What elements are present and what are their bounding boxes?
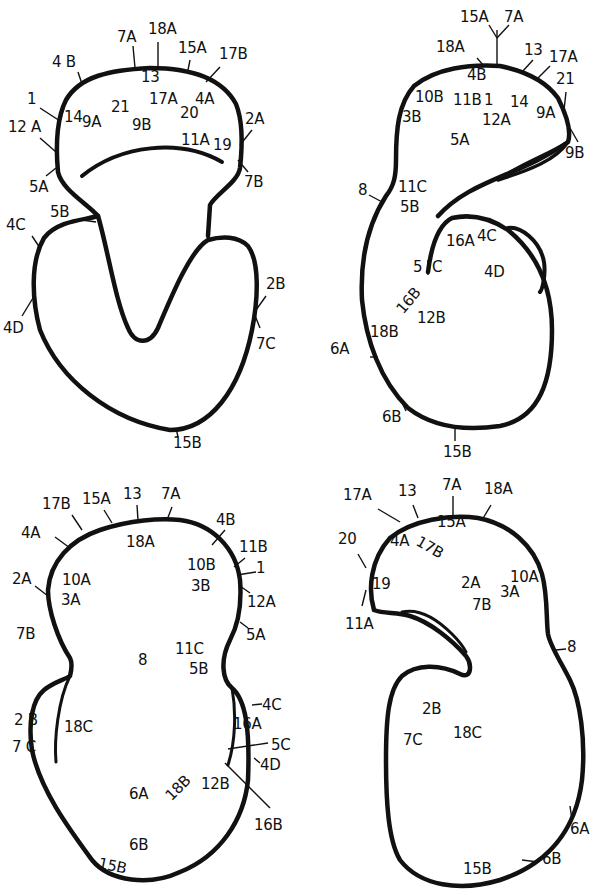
- label-10b: 10B: [187, 558, 215, 573]
- label-9b: 9B: [565, 146, 584, 161]
- label-4b: 4 B: [52, 55, 76, 70]
- outline-drawings: [0, 0, 608, 895]
- label-4c: 4C: [6, 218, 25, 233]
- label-1: 1: [27, 92, 36, 107]
- label-5b: 5B: [400, 200, 419, 215]
- label-4d: 4D: [484, 265, 505, 280]
- label-13: 13: [141, 70, 160, 85]
- label-7b: 7B: [244, 175, 263, 190]
- label-5c-letter: C: [432, 260, 442, 275]
- label-4b: 4B: [467, 68, 486, 83]
- label-17a: 17A: [549, 50, 577, 65]
- label-4a: 4A: [390, 534, 409, 549]
- label-5c: 5C: [271, 738, 290, 753]
- label-7a: 7A: [504, 10, 523, 25]
- label-6b: 6B: [129, 838, 148, 853]
- heart-diagram-figure: 7A 18A 15A 17B 4 B 13 17A 4A 1 14 9A 21 …: [0, 0, 608, 895]
- label-5a: 5A: [246, 628, 265, 643]
- label-15a: 15A: [460, 10, 488, 25]
- label-4d: 4D: [3, 321, 24, 336]
- label-5a: 5A: [29, 180, 48, 195]
- label-18c: 18C: [64, 720, 93, 735]
- label-20: 20: [180, 106, 199, 121]
- label-14: 14: [510, 95, 529, 110]
- label-8: 8: [358, 183, 367, 198]
- label-7a: 7A: [161, 487, 180, 502]
- label-6b: 6B: [382, 410, 401, 425]
- label-10a: 10A: [62, 573, 90, 588]
- label-12b: 12B: [417, 311, 445, 326]
- label-3b: 3B: [191, 579, 210, 594]
- label-21: 21: [111, 100, 130, 115]
- label-14: 14: [64, 110, 83, 125]
- label-16a: 16A: [446, 234, 474, 249]
- label-21: 21: [556, 72, 575, 87]
- label-7a: 7A: [442, 478, 461, 493]
- label-6a: 6A: [330, 342, 349, 357]
- label-5b: 5B: [189, 662, 208, 677]
- label-2a: 2A: [461, 576, 480, 591]
- label-2a: 2A: [12, 572, 31, 587]
- label-15a: 15A: [437, 515, 465, 530]
- label-9a: 9A: [536, 106, 555, 121]
- label-11b: 11B: [453, 93, 481, 108]
- label-18a: 18A: [436, 40, 464, 55]
- label-7c: 7C: [403, 733, 422, 748]
- label-4a: 4A: [21, 526, 40, 541]
- label-18b: 18B: [370, 325, 398, 340]
- leader-lines: [22, 25, 578, 862]
- label-5a: 5A: [450, 133, 469, 148]
- label-3a: 3A: [61, 593, 80, 608]
- label-7c: 7 C: [12, 740, 36, 755]
- label-18a: 18A: [126, 535, 154, 550]
- label-7c: 7C: [256, 337, 275, 352]
- label-18a: 18A: [484, 482, 512, 497]
- label-16b: 16B: [254, 818, 282, 833]
- label-13: 13: [398, 484, 417, 499]
- label-7a: 7A: [117, 30, 136, 45]
- label-13: 13: [123, 487, 142, 502]
- label-12a: 12A: [247, 595, 275, 610]
- label-17b: 17B: [219, 47, 247, 62]
- label-1: 1: [256, 561, 265, 576]
- label-11c: 11C: [175, 642, 204, 657]
- label-16a: 16A: [233, 717, 261, 732]
- label-6a: 6A: [570, 822, 589, 837]
- label-7b: 7B: [472, 598, 491, 613]
- label-2b: 2B: [266, 277, 285, 292]
- label-4c: 4C: [477, 229, 496, 244]
- label-12b: 12B: [201, 777, 229, 792]
- label-12a: 12A: [482, 113, 510, 128]
- label-7b: 7B: [16, 627, 35, 642]
- label-10b: 10B: [415, 90, 443, 105]
- label-19: 19: [213, 138, 232, 153]
- label-2b: 2B: [422, 702, 441, 717]
- label-17a: 17A: [343, 488, 371, 503]
- label-8: 8: [138, 653, 147, 668]
- label-17b: 17B: [42, 497, 70, 512]
- label-5c-number: 5: [413, 260, 422, 275]
- label-9b: 9B: [132, 118, 151, 133]
- label-20: 20: [338, 532, 357, 547]
- label-15a: 15A: [178, 41, 206, 56]
- label-3a: 3A: [500, 585, 519, 600]
- label-1: 1: [484, 93, 493, 108]
- label-4c: 4C: [262, 698, 281, 713]
- label-11a: 11A: [181, 133, 209, 148]
- label-6a: 6A: [129, 787, 148, 802]
- label-15b: 15B: [173, 436, 201, 451]
- label-11c: 11C: [398, 180, 427, 195]
- label-13: 13: [524, 43, 543, 58]
- label-4d: 4D: [260, 758, 281, 773]
- label-11a: 11A: [345, 617, 373, 632]
- label-3b: 3B: [402, 110, 421, 125]
- label-5b: 5B: [50, 205, 69, 220]
- label-8: 8: [567, 640, 576, 655]
- label-15b: 15B: [443, 445, 471, 460]
- label-2a: 2A: [245, 112, 264, 127]
- label-11b: 11B: [239, 540, 267, 555]
- label-15b: 15B: [463, 862, 491, 877]
- label-4b: 4B: [216, 513, 235, 528]
- label-19: 19: [372, 577, 391, 592]
- panel-bottom-right-outline: [371, 517, 583, 886]
